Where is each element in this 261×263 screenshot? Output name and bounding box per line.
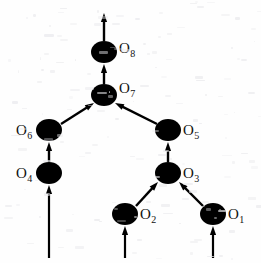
scan-speck	[60, 141, 64, 143]
node-label-base: O	[140, 206, 151, 222]
scan-speck	[22, 108, 27, 109]
node-label-subscript: 8	[130, 48, 136, 59]
scan-speck	[44, 138, 53, 140]
node-label-subscript: 6	[27, 130, 33, 141]
scan-speck	[69, 96, 73, 99]
scan-speck	[190, 241, 197, 243]
scan-speck	[206, 208, 211, 210]
scan-speck	[26, 17, 28, 19]
scan-speck	[194, 239, 202, 242]
scan-speck	[193, 119, 198, 122]
scan-speck	[136, 158, 145, 161]
scan-speck	[70, 23, 77, 25]
scan-speck	[159, 184, 167, 187]
scan-speck	[161, 204, 170, 207]
edge-O5-O7	[115, 103, 157, 124]
edge-in-O1	[210, 226, 216, 258]
scan-speck	[251, 166, 259, 169]
figure-root: O1O2O3O4O5O6O7O8	[0, 0, 261, 263]
scan-speck	[132, 252, 137, 254]
scan-speck	[43, 160, 51, 162]
scan-speck	[177, 27, 186, 28]
node-label-o1: O1	[228, 207, 244, 225]
arrowhead-icon	[46, 142, 52, 151]
scan-speck	[116, 15, 123, 17]
scan-speck	[117, 220, 126, 222]
arrowhead-icon	[115, 103, 124, 110]
scan-speck	[42, 113, 43, 114]
node-label-base: O	[119, 80, 130, 96]
scan-speck	[97, 92, 106, 94]
scan-speck	[140, 85, 148, 88]
scan-speck	[207, 256, 214, 257]
scan-speck	[234, 112, 235, 113]
scan-speck	[88, 105, 92, 107]
edge-in-O4	[46, 185, 52, 258]
node-label-o2: O2	[140, 207, 156, 225]
node-label-base: O	[228, 206, 239, 222]
scan-speck	[195, 76, 204, 79]
scan-speck	[189, 190, 197, 192]
node-label-base: O	[16, 165, 27, 181]
node-label-subscript: 4	[27, 173, 33, 184]
edge-in-O2	[122, 226, 128, 258]
scan-speck	[50, 70, 55, 72]
scan-speck	[60, 8, 67, 9]
scan-speck	[40, 57, 41, 60]
graph-node-o2[interactable]	[112, 203, 138, 225]
scan-speck	[232, 161, 236, 164]
scan-speck	[58, 12, 64, 13]
scan-speck	[85, 152, 91, 154]
scan-speck	[258, 116, 261, 117]
scan-speck	[114, 48, 123, 50]
scan-speck	[190, 252, 192, 255]
scan-speck	[44, 34, 54, 37]
graph-node-o5[interactable]	[155, 119, 181, 141]
scan-speck	[155, 176, 160, 178]
node-label-subscript: 2	[151, 214, 157, 225]
scan-speck	[147, 53, 149, 55]
node-label-o3: O3	[183, 166, 199, 184]
scan-speck	[241, 59, 247, 60]
scan-speck	[37, 81, 42, 83]
edge-O1-O3	[179, 182, 203, 206]
scan-speck	[163, 213, 173, 215]
scan-speck	[165, 95, 172, 97]
scan-speck	[190, 3, 197, 4]
node-label-base: O	[183, 165, 194, 181]
scan-speck	[137, 239, 143, 241]
scan-speck	[248, 197, 256, 200]
graph-node-o4[interactable]	[36, 162, 62, 184]
edge-shaft	[61, 107, 88, 124]
scan-speck	[152, 130, 159, 132]
scan-speck	[182, 198, 188, 200]
scan-speck	[224, 176, 231, 178]
scan-speck	[229, 230, 235, 233]
scan-speck	[99, 51, 108, 53]
scan-speck	[237, 58, 240, 60]
scan-speck	[249, 160, 255, 163]
edge-O7-O8	[101, 64, 107, 84]
scan-speck	[108, 95, 113, 98]
scan-speck	[18, 128, 27, 130]
scan-speck	[161, 76, 167, 77]
edge-shaft	[136, 187, 153, 206]
scan-speck	[12, 101, 18, 104]
scan-speck	[60, 39, 68, 41]
scan-speck	[197, 6, 204, 8]
scan-speck	[4, 217, 14, 219]
scan-speck	[18, 148, 27, 151]
scan-speck	[134, 216, 137, 217]
scan-speck	[109, 91, 111, 93]
graph-node-o3[interactable]	[155, 162, 181, 184]
arrowhead-icon	[122, 226, 128, 235]
scan-speck	[94, 23, 101, 26]
graph-node-o7[interactable]	[91, 84, 117, 106]
scan-speck	[167, 33, 171, 35]
scan-speck	[214, 217, 217, 219]
scan-speck	[224, 78, 231, 80]
node-label-base: O	[183, 122, 194, 138]
node-label-subscript: 7	[130, 88, 136, 99]
scan-speck	[196, 80, 205, 81]
node-label-o4: O4	[16, 166, 32, 184]
